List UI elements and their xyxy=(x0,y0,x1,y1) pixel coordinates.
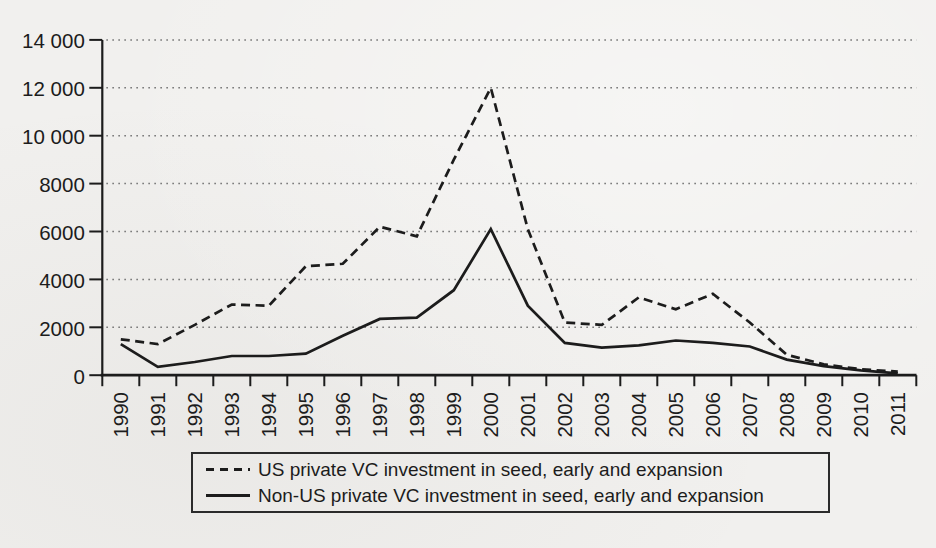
x-tick-label: 2006 xyxy=(701,392,724,438)
legend-label-us: US private VC investment in seed, early … xyxy=(258,459,723,481)
x-tick-label: 2008 xyxy=(775,392,798,438)
chart-legend: US private VC investment in seed, early … xyxy=(191,452,830,513)
y-tick-label: 10 000 xyxy=(22,125,85,148)
x-tick-label: 1991 xyxy=(146,392,169,438)
x-tick-label: 2009 xyxy=(812,392,835,438)
legend-solid-line-sample xyxy=(206,494,250,497)
x-tick-label: 2010 xyxy=(849,392,872,438)
x-tick-label: 1999 xyxy=(442,392,465,438)
vc-investment-line-chart: 0200040006000800010 00012 00014 00019901… xyxy=(0,0,936,452)
x-tick-label: 2000 xyxy=(479,392,502,438)
y-tick-label: 0 xyxy=(73,365,84,388)
x-tick-label: 2007 xyxy=(738,392,761,438)
legend-dashed-line-sample xyxy=(206,468,250,471)
y-tick-label: 2000 xyxy=(39,317,85,340)
series-line-dashed xyxy=(121,88,898,372)
y-tick-label: 14 000 xyxy=(22,29,85,52)
x-tick-label: 2011 xyxy=(886,392,909,436)
x-tick-label: 2001 xyxy=(516,392,539,438)
x-tick-label: 1997 xyxy=(368,392,391,438)
x-tick-label: 2002 xyxy=(553,392,576,438)
x-tick-label: 2003 xyxy=(590,392,613,438)
legend-row-us: US private VC investment in seed, early … xyxy=(206,459,828,481)
legend-label-non-us: Non-US private VC investment in seed, ea… xyxy=(258,485,764,507)
x-tick-label: 1993 xyxy=(220,392,243,438)
x-tick-label: 1992 xyxy=(183,392,206,438)
scanned-page: 0200040006000800010 00012 00014 00019901… xyxy=(0,0,936,548)
y-tick-label: 6000 xyxy=(39,221,85,244)
y-tick-label: 4000 xyxy=(39,269,85,292)
x-tick-label: 2004 xyxy=(627,392,650,438)
x-tick-label: 2005 xyxy=(664,392,687,438)
x-tick-label: 1990 xyxy=(109,392,132,438)
y-tick-label: 12 000 xyxy=(22,77,85,100)
x-tick-label: 1995 xyxy=(294,392,317,438)
x-tick-label: 1996 xyxy=(331,392,354,438)
x-tick-label: 1994 xyxy=(257,392,280,438)
x-tick-label: 1998 xyxy=(405,392,428,438)
legend-row-non-us: Non-US private VC investment in seed, ea… xyxy=(206,485,828,507)
y-tick-label: 8000 xyxy=(39,173,85,196)
